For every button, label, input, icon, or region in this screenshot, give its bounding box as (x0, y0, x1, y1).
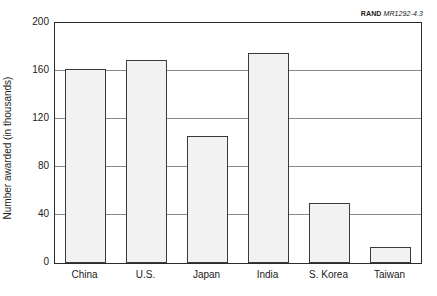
bar (65, 69, 105, 263)
rand-document-number: MR1292-4.3 (383, 10, 423, 17)
bar (248, 53, 288, 263)
x-tick-label: Taiwan (359, 269, 420, 281)
y-tick-label: 120 (19, 113, 49, 123)
bar (187, 136, 227, 263)
bar (309, 203, 349, 263)
bar (370, 247, 410, 263)
x-tick-label: S. Korea (298, 269, 359, 281)
plot-area (54, 22, 422, 264)
y-tick-label: 40 (19, 209, 49, 219)
bar (126, 60, 166, 263)
x-tick-label: Japan (176, 269, 237, 281)
rand-logo-text: RAND (361, 10, 382, 17)
bar-series (55, 23, 421, 263)
figure-credit: RANDMR1292-4.3 (361, 9, 423, 18)
y-axis-title: Number awarded (in thousands) (0, 0, 16, 296)
y-tick-label: 160 (19, 65, 49, 75)
x-tick-label: U.S. (115, 269, 176, 281)
y-tick-label: 0 (19, 257, 49, 267)
y-tick-label: 200 (19, 17, 49, 27)
figure: RANDMR1292-4.3 Number awarded (in thousa… (0, 0, 437, 296)
x-tick-label: India (237, 269, 298, 281)
x-tick-label: China (54, 269, 115, 281)
y-tick-label: 80 (19, 161, 49, 171)
